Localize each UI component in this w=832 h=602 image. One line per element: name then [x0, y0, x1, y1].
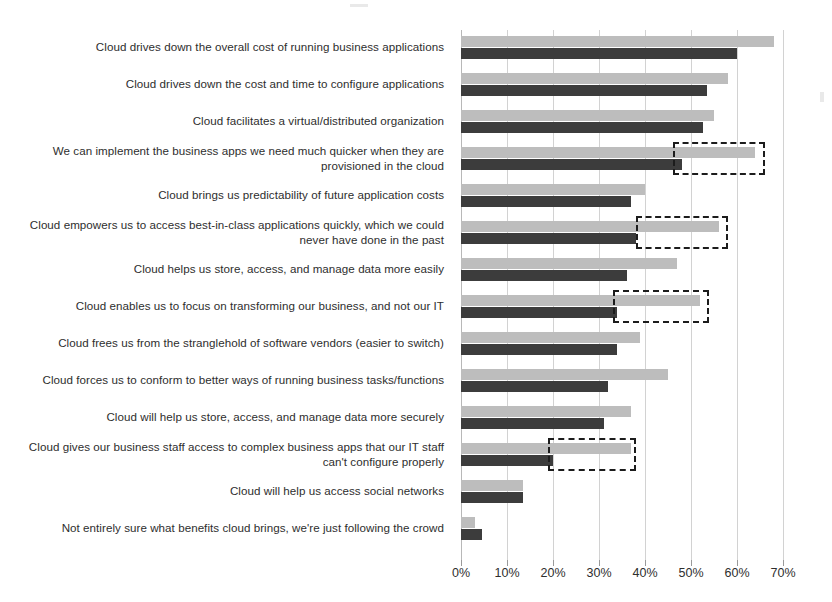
gridline-70%	[783, 30, 784, 560]
bar-series1	[461, 36, 774, 47]
plot-area	[461, 30, 783, 560]
bar-series1	[461, 110, 714, 121]
category-label-column: Cloud drives down the overall cost of ru…	[0, 0, 452, 560]
bar-series2	[461, 233, 636, 244]
bar-series2	[461, 159, 682, 170]
category-label: Cloud drives down the overall cost of ru…	[4, 40, 444, 55]
bar-group	[461, 184, 783, 207]
bar-group	[461, 36, 783, 59]
bar-series1	[461, 443, 631, 454]
bar-series1	[461, 184, 645, 195]
category-label: Cloud drives down the cost and time to c…	[4, 77, 444, 92]
bar-series1	[461, 406, 631, 417]
bar-series1	[461, 332, 640, 343]
bar-group	[461, 369, 783, 392]
bar-series1	[461, 295, 700, 306]
bar-series1	[461, 480, 523, 491]
bar-group	[461, 147, 783, 170]
bar-group	[461, 517, 783, 540]
x-tick-label: 50%	[678, 566, 703, 580]
bar-group	[461, 73, 783, 96]
x-tick-label: 60%	[724, 566, 749, 580]
bar-series2	[461, 48, 737, 59]
bar-group	[461, 480, 783, 503]
x-tick-label: 30%	[586, 566, 611, 580]
bar-group	[461, 110, 783, 133]
bar-series2	[461, 455, 553, 466]
bar-series2	[461, 529, 482, 540]
category-label: Cloud facilitates a virtual/distributed …	[4, 114, 444, 129]
bar-series1	[461, 517, 475, 528]
x-tick-label: 20%	[540, 566, 565, 580]
bar-series2	[461, 122, 703, 133]
category-label: We can implement the business apps we ne…	[4, 144, 444, 173]
bar-series2	[461, 492, 523, 503]
bar-group	[461, 406, 783, 429]
bar-series2	[461, 85, 707, 96]
category-label: Cloud will help us store, access, and ma…	[4, 410, 444, 425]
category-label: Not entirely sure what benefits cloud br…	[4, 521, 444, 536]
bar-group	[461, 332, 783, 355]
bar-group	[461, 221, 783, 244]
category-label: Cloud forces us to conform to better way…	[4, 373, 444, 388]
x-tick-label: 40%	[632, 566, 657, 580]
category-label: Cloud brings us predictability of future…	[4, 188, 444, 203]
bar-group	[461, 258, 783, 281]
x-tick-label: 70%	[770, 566, 795, 580]
bar-series1	[461, 369, 668, 380]
category-label: Cloud will help us access social network…	[4, 484, 444, 499]
category-label: Cloud frees us from the stranglehold of …	[4, 336, 444, 351]
bar-series1	[461, 147, 755, 158]
bar-series2	[461, 307, 617, 318]
bar-series2	[461, 196, 631, 207]
category-label: Cloud empowers us to access best-in-clas…	[4, 218, 444, 247]
x-axis: 0%10%20%30%40%50%60%70%	[461, 560, 801, 590]
category-label: Cloud gives our business staff access to…	[4, 440, 444, 469]
bar-series2	[461, 418, 604, 429]
scan-artifact	[820, 92, 824, 102]
bar-group	[461, 295, 783, 318]
bar-series2	[461, 381, 608, 392]
bar-series1	[461, 221, 719, 232]
category-label: Cloud enables us to focus on transformin…	[4, 299, 444, 314]
x-tick-label: 10%	[494, 566, 519, 580]
horizontal-bar-chart: Cloud drives down the overall cost of ru…	[0, 0, 832, 602]
bar-group	[461, 443, 783, 466]
category-label: Cloud helps us store, access, and manage…	[4, 262, 444, 277]
bar-series1	[461, 73, 728, 84]
x-tick-label: 0%	[452, 566, 470, 580]
bar-series2	[461, 270, 627, 281]
bar-series1	[461, 258, 677, 269]
bar-series2	[461, 344, 617, 355]
